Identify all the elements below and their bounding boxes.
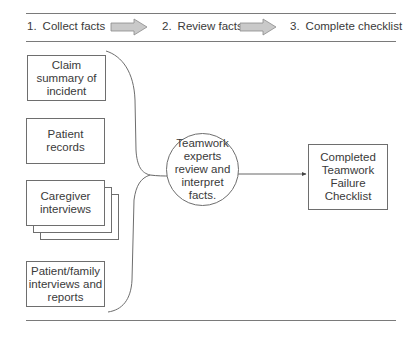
curly-brace [106, 51, 150, 312]
text-line: review and [175, 163, 231, 176]
text-line: interpret [175, 176, 231, 189]
output-checklist: Completed Teamwork Failure Checklist [308, 144, 388, 210]
text-line: Teamwork [175, 137, 231, 150]
text-line: Completed [320, 151, 376, 164]
text-line: Teamwork [320, 164, 376, 177]
text-line: facts. [175, 189, 231, 202]
process-text: Teamwork experts review and interpret fa… [175, 137, 231, 202]
text-line: Checklist [320, 190, 376, 203]
footer-rule [26, 320, 396, 321]
process-circle: Teamwork experts review and interpret fa… [166, 133, 239, 206]
output-checklist-text: Completed Teamwork Failure Checklist [320, 151, 376, 203]
text-line: Failure [320, 177, 376, 190]
text-line: experts [175, 150, 231, 163]
